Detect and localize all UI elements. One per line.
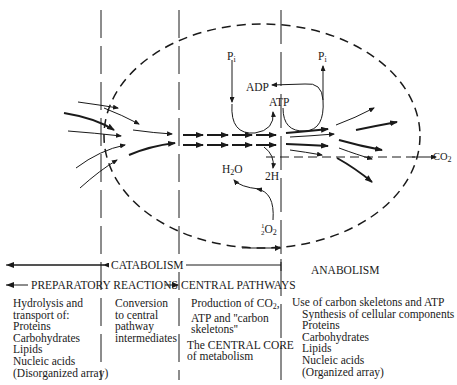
respiration-arrows [234,147,273,220]
central-pathways-label: CENTRAL PATHWAYS [181,279,296,292]
pi-output-label: Pi [318,50,327,66]
two-h-label: 2H [265,170,279,183]
preparatory-column: Hydrolysis and transport of: Proteins Ca… [13,298,108,379]
incoming-arrows [64,102,175,188]
outgoing-arrows [286,108,397,182]
central-pathway-arrows [183,135,276,145]
co2-label: CO2 [433,150,452,166]
anabolism-column: Use of carbon skeletons and ATP Synthesi… [292,297,454,378]
water-label: H2O [222,163,243,179]
pi-input-label: Pi [227,50,236,66]
anabolism-label: ANABOLISM [311,264,379,277]
conversion-column: Conversion to central pathway intermedia… [115,298,177,344]
half-oxygen-label: 12O2 [261,223,277,239]
adp-label: ADP [246,81,269,94]
catabolism-label: CATABOLISM [109,259,186,272]
central-column: Production of CO2, ATP and ''carbon skel… [191,298,294,363]
atp-label: ATP [269,96,289,109]
preparatory-reactions-label: PREPARATORY REACTIONS [31,279,178,292]
